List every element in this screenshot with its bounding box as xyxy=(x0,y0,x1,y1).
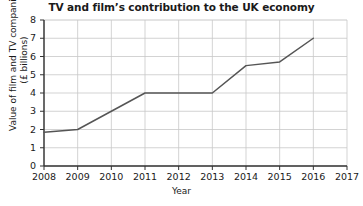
x-tick-label: 2012 xyxy=(162,172,196,182)
y-tick-label: 6 xyxy=(22,52,36,62)
x-tick-label: 2016 xyxy=(296,172,330,182)
x-tick-label: 2014 xyxy=(229,172,263,182)
x-tick-label: 2010 xyxy=(94,172,128,182)
x-axis-title: Year xyxy=(0,186,363,196)
y-tick-label: 3 xyxy=(22,106,36,116)
x-tick-label: 2008 xyxy=(27,172,61,182)
x-tick-label: 2011 xyxy=(128,172,162,182)
chart-container: TV and film’s contribution to the UK eco… xyxy=(0,0,363,206)
x-tick-label: 2017 xyxy=(330,172,363,182)
y-tick-label: 5 xyxy=(22,70,36,80)
y-tick-label: 1 xyxy=(22,143,36,153)
x-tick-label: 2013 xyxy=(195,172,229,182)
y-tick-label: 8 xyxy=(22,15,36,25)
x-tick-label: 2009 xyxy=(61,172,95,182)
x-tick-label: 2015 xyxy=(263,172,297,182)
y-tick-label: 4 xyxy=(22,88,36,98)
y-tick-label: 0 xyxy=(22,161,36,171)
y-tick-label: 7 xyxy=(22,33,36,43)
y-tick-label: 2 xyxy=(22,125,36,135)
